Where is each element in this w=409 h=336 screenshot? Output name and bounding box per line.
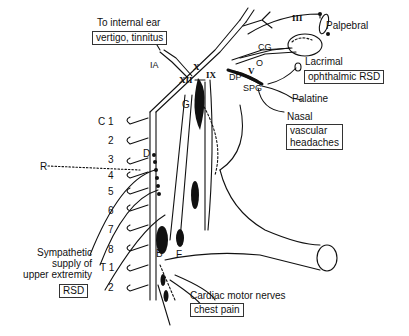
label-nasal: Nasal	[287, 111, 313, 122]
marker-DP: DP	[229, 72, 242, 83]
marker-XII: XII	[179, 75, 193, 86]
vertebra-label: 3	[108, 154, 114, 165]
marker-IA: IA	[150, 60, 159, 71]
marker-A: A	[177, 229, 184, 240]
box-vertigo-tinnitus: vertigo, tinnitus	[92, 31, 167, 45]
marker-O: O	[256, 58, 263, 69]
marker-B: B	[156, 248, 163, 259]
marker-CG: CG	[258, 42, 272, 53]
carotid-branches	[240, 8, 272, 28]
box-rsd: RSD	[59, 284, 88, 298]
marker-V: V	[248, 66, 255, 77]
label-internal-ear: To internal ear	[97, 17, 160, 28]
vertebral-artery	[150, 112, 156, 300]
marker-F: F	[176, 249, 182, 260]
marker-X: X	[193, 62, 200, 73]
sympathetic-trunk	[170, 95, 192, 240]
vertebra-label: 7	[108, 224, 114, 235]
marker-R: R	[40, 161, 47, 172]
label-lacrimal: Lacrimal	[305, 56, 343, 67]
marker-G: G	[182, 99, 190, 110]
label-palatine: Palatine	[292, 93, 328, 104]
box-chest-pain: chest pain	[190, 303, 244, 317]
vascular-line-1: vascular	[290, 125, 339, 137]
vertebra-label: 5	[108, 186, 114, 197]
label-palpebral: Palpebral	[326, 20, 368, 31]
sympathetic-line-1: Sympathetic	[20, 247, 92, 258]
marker-D: D	[143, 148, 150, 159]
marker-IX: IX	[206, 70, 216, 81]
box-ophthalmic-rsd: ophthalmic RSD	[304, 70, 384, 84]
vertebra-label: 4	[108, 170, 114, 181]
marker-III: III	[292, 13, 303, 24]
sympathetic-line-3: upper extremity	[20, 269, 92, 280]
label-sympathetic-supply: Sympathetic supply of upper extremity	[20, 247, 92, 280]
vertebral-processes	[127, 117, 148, 291]
vertebra-label: 6	[108, 205, 114, 216]
vertebra-label: 2	[108, 135, 114, 146]
vertebra-label: 8	[108, 244, 114, 255]
superior-cervical-ganglion	[194, 78, 204, 130]
sympathetic-line-2: supply of	[20, 258, 92, 269]
box-vascular-headaches: vascular headaches	[286, 124, 343, 150]
label-cardiac-motor-nerves: Cardiac motor nerves	[190, 290, 286, 301]
vertebra-label: T 1	[100, 262, 114, 273]
vascular-line-2: headaches	[290, 137, 339, 149]
middle-cervical-ganglion	[191, 181, 199, 209]
vertebra-label: C 1	[98, 116, 114, 127]
marker-SPG: SPG	[243, 83, 262, 94]
vertebra-label: 2	[108, 282, 114, 293]
